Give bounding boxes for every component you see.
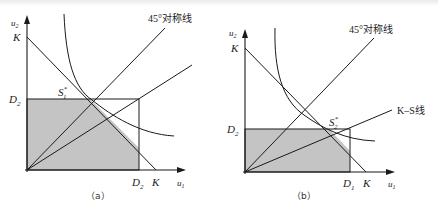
y-axis-arrow-icon [242, 29, 248, 38]
panel-a: u2 K D2 S*1 D2 K u1 45°对称线 （a） [8, 12, 192, 201]
d2-x-label-a: D2 [131, 176, 144, 191]
k-intercept-y-a: K [12, 31, 21, 43]
y-axis-arrow-icon [24, 15, 30, 24]
caption-a: （a） [86, 191, 110, 201]
x-axis-label-a: u1 [177, 178, 185, 189]
panel-b: u2 K D2 S*2 D1 K u1 45°对称线 K–S线 （b） [226, 23, 425, 201]
y-axis-label-a: u2 [11, 18, 19, 29]
k-intercept-x-a: K [151, 176, 160, 188]
d1-label-b: D1 [342, 177, 354, 192]
caption-b: （b） [292, 191, 316, 201]
x-axis-label-b: u1 [388, 179, 396, 190]
y-axis-label-b: u2 [229, 28, 237, 39]
symmetry-line-label-b: 45°对称线 [349, 23, 393, 35]
k-intercept-x-b: K [362, 177, 371, 189]
d2-label-b: D2 [226, 123, 239, 138]
x-axis-arrow-icon [177, 167, 186, 173]
nash-product-curve-b [275, 28, 375, 141]
x-axis-arrow-icon [386, 169, 395, 175]
ks-line-label-b: K–S线 [397, 104, 425, 116]
k-intercept-y-b: K [230, 42, 239, 54]
symmetry-line-label-a: 45°对称线 [148, 12, 192, 24]
d2-label-a: D2 [8, 93, 21, 108]
